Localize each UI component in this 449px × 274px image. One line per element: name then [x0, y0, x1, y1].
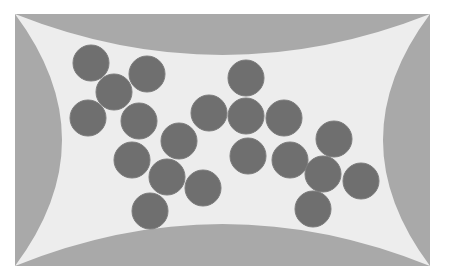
particle-circle	[114, 142, 150, 178]
particle-circle	[161, 123, 197, 159]
particle-circle	[228, 60, 264, 96]
particle-circle	[129, 56, 165, 92]
particle-circle	[266, 100, 302, 136]
particle-circle	[272, 142, 308, 178]
particle-circle	[73, 45, 109, 81]
particle-circle	[316, 121, 352, 157]
particle-circle	[70, 100, 106, 136]
particle-diagram	[0, 0, 449, 274]
particle-circle	[230, 138, 266, 174]
particle-circle	[149, 159, 185, 195]
particle-circle	[96, 74, 132, 110]
particle-circle	[305, 156, 341, 192]
particle-circle	[343, 163, 379, 199]
particle-circle	[132, 193, 168, 229]
particle-circle	[191, 95, 227, 131]
particle-circle	[185, 170, 221, 206]
diagram-canvas	[0, 0, 449, 274]
particle-circle	[121, 103, 157, 139]
particle-circle	[228, 98, 264, 134]
particle-circle	[295, 191, 331, 227]
